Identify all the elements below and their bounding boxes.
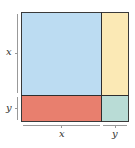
- left-brace-y: [17, 97, 20, 120]
- square-outline: [21, 12, 129, 122]
- label-bottom-y: y: [112, 129, 118, 139]
- label-left-y: y: [6, 103, 12, 113]
- left-brace-y-tick: [15, 108, 17, 109]
- horizontal-divider: [21, 95, 129, 96]
- vertical-divider: [101, 12, 102, 122]
- label-bottom-x: x: [59, 129, 65, 139]
- label-left-x: x: [6, 47, 12, 57]
- left-brace-x: [17, 14, 20, 93]
- left-brace-x-tick: [15, 53, 17, 54]
